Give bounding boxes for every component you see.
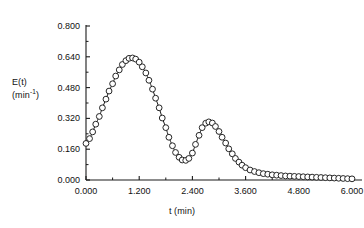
- x-axis-title: t (min): [0, 206, 364, 216]
- data-point-marker: [116, 67, 122, 73]
- data-point-marker: [100, 105, 106, 111]
- y-axis-title-line2: (min-1): [12, 89, 39, 102]
- data-point-marker: [216, 129, 222, 135]
- data-point-marker: [113, 73, 119, 79]
- y-tick-label: 0.000: [57, 175, 80, 185]
- data-point-marker: [90, 129, 96, 135]
- data-point-marker: [163, 125, 169, 131]
- data-point-marker: [223, 140, 229, 146]
- y-tick-label: 0.160: [57, 144, 80, 154]
- data-point-marker: [186, 156, 192, 162]
- y-tick-label: 0.320: [57, 113, 80, 123]
- data-line: [86, 58, 352, 179]
- data-point-marker: [139, 64, 145, 70]
- data-point-marker: [96, 114, 102, 120]
- data-point-marker: [159, 115, 165, 121]
- data-point-marker: [93, 121, 99, 127]
- x-tick-label: 1.200: [128, 186, 151, 196]
- data-point-marker: [166, 134, 172, 140]
- data-point-marker: [153, 95, 159, 101]
- axes-group: [86, 25, 362, 180]
- y-axis-title: E(t) (min-1): [12, 76, 39, 102]
- y-axis-ticks: [86, 26, 90, 180]
- data-point-marker: [87, 136, 93, 142]
- data-point-marker: [143, 70, 149, 76]
- x-tick-label: 4.800: [288, 186, 311, 196]
- y-axis-tick-labels: 0.0000.1600.3200.4800.6400.800: [57, 21, 80, 185]
- data-series-group: [83, 55, 355, 182]
- x-tick-label: 2.400: [181, 186, 204, 196]
- data-point-marker: [106, 88, 112, 94]
- y-tick-label: 0.480: [57, 83, 80, 93]
- data-point-markers: [83, 55, 355, 182]
- data-point-marker: [349, 176, 355, 182]
- data-point-marker: [103, 96, 109, 102]
- data-point-marker: [219, 134, 225, 140]
- rtd-curve-plot: 0.0000.1600.3200.4800.6400.800 0.0001.20…: [0, 0, 364, 228]
- x-tick-label: 6.000: [341, 186, 364, 196]
- data-point-marker: [193, 141, 199, 147]
- x-tick-label: 3.600: [234, 186, 257, 196]
- data-point-marker: [150, 86, 156, 92]
- data-point-marker: [196, 132, 202, 138]
- data-point-marker: [170, 143, 176, 149]
- y-tick-label: 0.640: [57, 52, 80, 62]
- x-tick-label: 0.000: [75, 186, 98, 196]
- chart-figure: 0.0000.1600.3200.4800.6400.800 0.0001.20…: [0, 0, 364, 228]
- x-axis-tick-labels: 0.0001.2002.4003.6004.8006.000: [75, 186, 364, 196]
- y-tick-label: 0.800: [57, 21, 80, 31]
- y-axis-unit-suffix: ): [36, 90, 39, 100]
- data-point-marker: [190, 150, 196, 156]
- y-axis-unit-prefix: (min: [12, 90, 30, 100]
- data-point-marker: [110, 81, 116, 87]
- data-point-marker: [156, 105, 162, 111]
- data-point-marker: [146, 77, 152, 83]
